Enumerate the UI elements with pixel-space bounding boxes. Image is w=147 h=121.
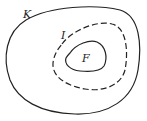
label-k: K	[22, 8, 32, 21]
outer-region-k	[6, 7, 140, 114]
nested-sets-diagram: K I F	[0, 0, 147, 121]
label-f: F	[81, 52, 90, 65]
label-i: I	[60, 29, 66, 42]
